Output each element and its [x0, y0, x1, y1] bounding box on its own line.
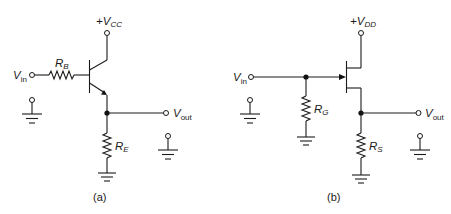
vin-terminal-b [249, 75, 254, 80]
vdd-terminal [359, 31, 364, 36]
vout-label-a: Vout [173, 107, 193, 122]
caption-a: (a) [93, 191, 106, 203]
ground-icon [297, 137, 315, 145]
circuit-figure: Vin RB +VCC Vout [0, 0, 451, 214]
input-ground-reference-a [22, 98, 42, 124]
ground-icon [352, 175, 370, 183]
circuit-a: Vin RB +VCC Vout [13, 15, 193, 203]
vout-terminal-b [416, 111, 421, 116]
input-ground-reference-b [240, 98, 260, 124]
output-ground-reference-a [158, 134, 178, 160]
vin-label-a: Vin [13, 69, 27, 84]
vdd-label: +VDD [350, 15, 376, 29]
vin-label-b: Vin [233, 71, 247, 86]
circuit-b: Vin +VDD Vout RG [233, 15, 445, 203]
ground-icon [98, 173, 116, 181]
rg-label: RG [314, 103, 329, 117]
resistor-rb-icon [49, 71, 74, 79]
resistor-rg-icon [302, 96, 310, 121]
vcc-terminal [105, 31, 110, 36]
resistor-re-icon [103, 133, 111, 158]
vcc-label: +VCC [96, 15, 122, 29]
re-label: RE [115, 140, 129, 154]
vin-terminal-a [30, 73, 35, 78]
rs-label: RS [369, 140, 383, 154]
n-jfet-icon [339, 61, 361, 93]
caption-b: (b) [327, 191, 340, 203]
resistor-rs-icon [357, 133, 365, 158]
rb-label: RB [55, 57, 69, 71]
vout-terminal-a [164, 111, 169, 116]
npn-transistor-icon [90, 60, 108, 95]
output-ground-reference-b [410, 134, 430, 160]
vout-label-b: Vout [425, 107, 445, 122]
